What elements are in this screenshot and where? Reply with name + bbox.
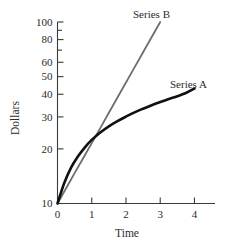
plot-background: [0, 0, 242, 250]
y-tick-label-100: 100: [36, 16, 53, 28]
y-tick-label-40: 40: [42, 88, 54, 100]
y-tick-label-20: 20: [42, 143, 54, 155]
y-tick-label-50: 50: [42, 70, 54, 82]
x-axis-title: Time: [115, 227, 139, 239]
y-tick-label-30: 30: [42, 111, 54, 123]
y-axis-title: Dollars: [9, 101, 21, 135]
chart-container: 10203040506080100 Dollars 01234 Time Ser…: [0, 0, 242, 250]
x-tick-label-3: 3: [157, 208, 163, 220]
semilog-line-chart: 10203040506080100 Dollars 01234 Time Ser…: [0, 0, 242, 250]
x-tick-label-1: 1: [89, 208, 95, 220]
x-tick-label-2: 2: [123, 208, 129, 220]
series-b-label: Series B: [133, 8, 170, 20]
series-a-label: Series A: [170, 78, 207, 90]
y-tick-label-10: 10: [42, 197, 54, 209]
x-tick-label-0: 0: [55, 208, 61, 220]
x-tick-label-4: 4: [192, 208, 198, 220]
y-tick-label-80: 80: [42, 33, 54, 45]
y-tick-label-60: 60: [42, 56, 54, 68]
